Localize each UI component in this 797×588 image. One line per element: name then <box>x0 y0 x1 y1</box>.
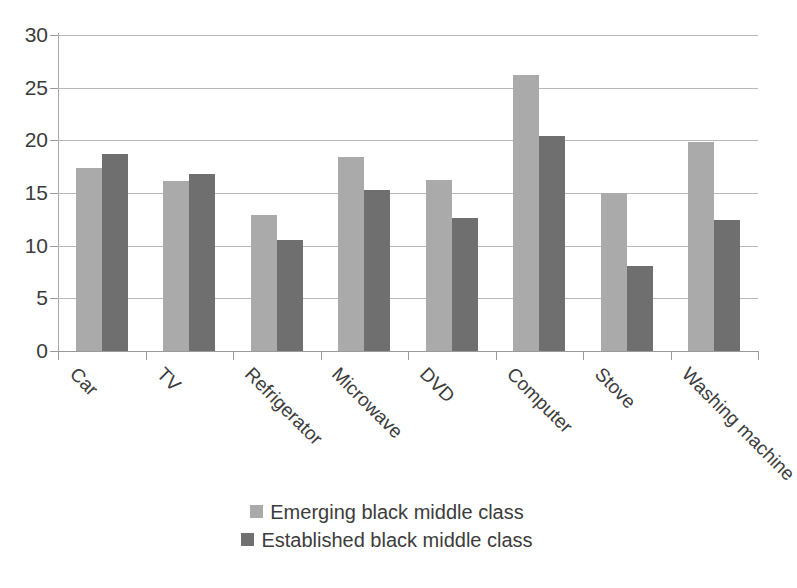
legend-item: Established black middle class <box>0 528 774 552</box>
y-axis-tick-label: 10 <box>8 235 48 256</box>
legend-item: Emerging black middle class <box>0 500 774 524</box>
bar <box>426 180 452 351</box>
y-axis-tick-label: 5 <box>8 287 48 308</box>
bar <box>189 174 215 351</box>
y-axis-tick-label: 15 <box>8 182 48 203</box>
x-axis-label-text: Computer <box>503 364 576 437</box>
bar <box>251 215 277 351</box>
y-axis-tick-label: 0 <box>8 340 48 361</box>
x-axis-tick-mark <box>321 351 322 360</box>
y-axis-tick-label: 30 <box>8 24 48 45</box>
y-axis-tick-mark <box>50 140 58 141</box>
x-axis-label-text: Washing machine <box>678 364 797 484</box>
bar <box>714 220 740 351</box>
x-axis-label-text: Car <box>66 364 102 400</box>
legend-color-swatch <box>250 505 263 518</box>
y-axis-tick-label: 25 <box>8 77 48 98</box>
x-axis-tick-mark <box>758 351 759 360</box>
bar <box>627 266 653 351</box>
x-axis-tick-mark <box>496 351 497 360</box>
y-axis-tick-label: 20 <box>8 129 48 150</box>
y-axis-tick-mark <box>50 35 58 36</box>
x-axis-label-text: Microwave <box>328 364 406 442</box>
y-axis-tick-mark <box>50 193 58 194</box>
x-axis-label-text: Refrigerator <box>241 364 326 449</box>
chart-legend: Emerging black middle classEstablished b… <box>0 500 774 556</box>
x-axis-label-text: DVD <box>416 364 459 407</box>
x-axis-tick-mark <box>146 351 147 360</box>
bar <box>452 218 478 351</box>
plot-area <box>58 35 758 351</box>
y-axis-tick-mark <box>50 351 58 352</box>
y-axis-tick-mark <box>50 88 58 89</box>
x-axis-tick-mark <box>671 351 672 360</box>
x-axis-tick-mark <box>58 351 59 360</box>
legend-color-swatch <box>241 533 254 546</box>
bar <box>102 154 128 351</box>
x-axis-tick-mark <box>408 351 409 360</box>
x-axis-label-text: Stove <box>591 364 640 413</box>
x-axis-tick-mark <box>233 351 234 360</box>
legend-label: Established black middle class <box>261 528 532 552</box>
y-axis-tick-mark <box>50 298 58 299</box>
bar <box>539 136 565 351</box>
bar <box>688 142 714 351</box>
bar <box>513 75 539 351</box>
bar <box>163 181 189 351</box>
legend-label: Emerging black middle class <box>270 500 523 524</box>
x-axis-tick-mark <box>583 351 584 360</box>
bar <box>364 190 390 351</box>
y-axis-tick-mark <box>50 246 58 247</box>
bar <box>601 193 627 351</box>
bar <box>277 240 303 351</box>
bar <box>76 168 102 351</box>
x-axis-label-text: TV <box>153 364 184 395</box>
bar <box>338 157 364 351</box>
